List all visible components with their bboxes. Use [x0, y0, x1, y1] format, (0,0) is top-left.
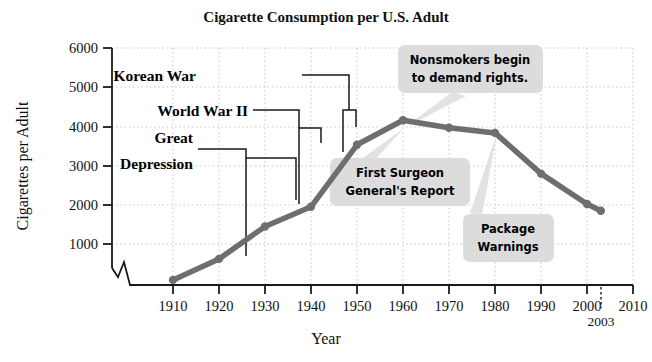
callout-nonsmokers-begin-to-demand-rights: Nonsmokers begin to demand rights. [398, 45, 543, 93]
data-point-1930 [261, 222, 269, 230]
data-point-1970 [445, 124, 453, 132]
chart-figure: Cigarette Consumption per U.S. Adult [0, 0, 652, 362]
chart-title: Cigarette Consumption per U.S. Adult [203, 9, 448, 25]
data-point-1910 [169, 276, 177, 284]
x-tick-label-1990: 1990 [527, 298, 556, 314]
data-point-2003 [597, 207, 605, 215]
callout-package-warnings-line2: Warnings [477, 240, 538, 254]
callout-surgeon-general-line2: General's Report [346, 184, 455, 198]
callout-package-warnings: Package Warnings [463, 214, 554, 262]
callout-nonsmokers-line2: to demand rights. [412, 71, 528, 85]
y-axis-title: Cigarettes per Adult [14, 101, 32, 230]
x-tick-label-1910: 1910 [159, 298, 188, 314]
callout-package-warnings-line1: Package [481, 222, 535, 236]
x-tick-label-1960: 1960 [389, 298, 418, 314]
data-point-1920 [215, 255, 223, 263]
x-axis-title: Year [311, 330, 341, 347]
x-tick-label-2010: 2010 [619, 298, 648, 314]
x-tick-label-1920: 1920 [205, 298, 234, 314]
annotation-label-great-depression-line2: Depression [120, 155, 193, 172]
cigarette-consumption-line-chart: Cigarette Consumption per U.S. Adult [0, 0, 652, 362]
x-tick-label-1970: 1970 [435, 298, 464, 314]
annotation-label-great-depression-line1: Great [155, 129, 194, 146]
y-tick-label-2000: 2000 [69, 197, 98, 213]
callout-first-surgeon-generals-report: First Surgeon General's Report [330, 158, 470, 206]
annotation-label-world-war-ii: World War II [157, 102, 248, 119]
y-tick-label-5000: 5000 [69, 79, 98, 95]
annotation-label-korean-war: Korean War [113, 67, 196, 84]
y-tick-label-1000: 1000 [69, 236, 98, 252]
data-point-1950 [353, 141, 361, 149]
y-tick-label-3000: 3000 [69, 158, 98, 174]
x-tick-label-2000: 2000 [573, 298, 602, 314]
data-point-1960 [399, 116, 407, 124]
y-tick-label-4000: 4000 [69, 119, 98, 135]
x-tick-label-1930: 1930 [251, 298, 280, 314]
callout-nonsmokers-line1: Nonsmokers begin [410, 53, 531, 67]
y-tick-label-6000: 6000 [69, 40, 98, 56]
x-tick-label-1940: 1940 [297, 298, 326, 314]
x-tick-label-1980: 1980 [481, 298, 510, 314]
data-point-1940 [307, 203, 315, 211]
data-point-2000 [583, 200, 591, 208]
data-point-1990 [537, 169, 545, 177]
x-tick-label-1950: 1950 [343, 298, 372, 314]
x-tick-label-2003: 2003 [588, 314, 615, 329]
callout-surgeon-general-line1: First Surgeon [356, 166, 444, 180]
data-point-1980 [491, 129, 499, 137]
